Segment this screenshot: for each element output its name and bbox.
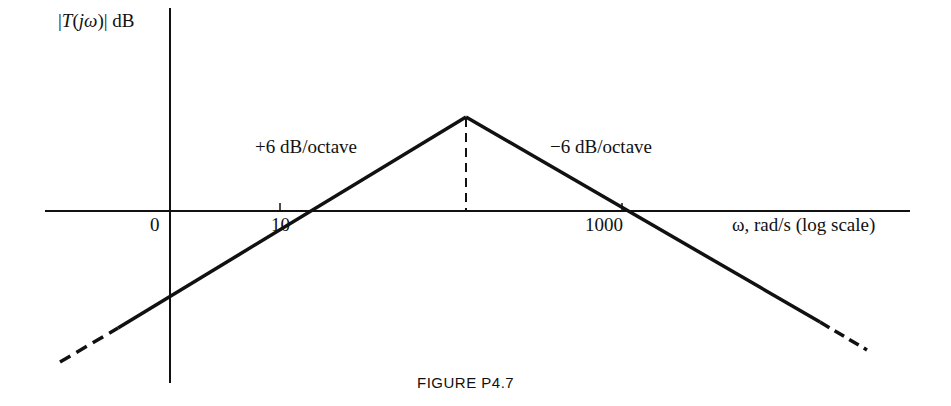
falling-slope-label: −6 dB/octave (550, 137, 652, 156)
y-label-unit: dB (108, 10, 135, 31)
rising-slope-label: +6 dB/octave (255, 137, 357, 156)
tick-label-1000: 1000 (585, 215, 623, 234)
figure-caption: FIGURE P4.7 (417, 375, 514, 390)
falling-asymptote-dashed (820, 322, 867, 350)
y-axis-label: |T(jω)| dB (58, 11, 135, 30)
origin-label: 0 (150, 215, 160, 234)
y-label-close: )| (97, 10, 107, 31)
y-label-T: T (62, 10, 73, 31)
tick-label-10: 10 (271, 215, 290, 234)
y-label-omega: ω (84, 10, 97, 31)
x-axis-label: ω, rad/s (log scale) (732, 215, 875, 234)
rising-asymptote-dashed (60, 328, 118, 362)
bode-plot (0, 0, 951, 406)
